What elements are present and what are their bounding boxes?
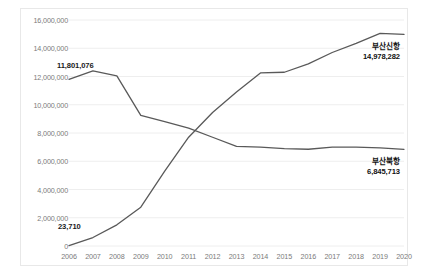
y-axis-tick-label: 14,000,000 [0,44,68,53]
x-axis-tick-label: 2007 [85,252,101,261]
x-axis-tick-label: 2006 [61,252,77,261]
series-lines [69,33,404,245]
y-axis-tick-label: 10,000,000 [0,100,68,109]
new-port-end-label: 부산신항14,978,282 [280,42,400,63]
x-axis-tick-label: 2015 [277,252,293,261]
x-axis-tick-label: 2018 [348,252,364,261]
x-axis-tick-label: 2016 [300,252,316,261]
x-axis-tick-label: 2008 [109,252,125,261]
new-port-first-value: 23,710 [58,222,81,231]
north-port-end-label: 부산북항6,845,713 [280,157,400,178]
y-axis-labels: 02,000,0004,000,0006,000,0008,000,00010,… [0,0,68,276]
x-axis-tick-label: 2010 [157,252,173,261]
y-axis-tick-label: 2,000,000 [0,213,68,222]
x-axis-tick-label: 2017 [324,252,340,261]
series-line-0 [69,71,404,149]
x-axis-tick-label: 2014 [253,252,269,261]
series-name: 부산북항 [280,157,400,167]
x-axis-labels: 2006200720082009201020112012201320142015… [0,252,423,268]
x-axis-tick-label: 2019 [372,252,388,261]
series-name: 부산신항 [280,42,400,52]
y-axis-tick-label: 12,000,000 [0,72,68,81]
series-value: 6,845,713 [280,167,400,177]
x-axis-tick-label: 2011 [181,252,196,261]
y-axis-tick-label: 8,000,000 [0,129,68,138]
x-axis-tick-label: 2012 [205,252,221,261]
north-port-first-value: 11,801,076 [57,61,94,70]
x-axis-tick-label: 2020 [396,252,412,261]
y-axis-tick-label: 4,000,000 [0,185,68,194]
x-axis-tick-label: 2009 [133,252,149,261]
y-axis-tick-label: 0 [0,242,68,251]
series-line-1 [69,33,404,245]
y-axis-tick-label: 6,000,000 [0,157,68,166]
series-value: 14,978,282 [280,52,400,62]
y-axis-tick-label: 16,000,000 [0,16,68,25]
x-axis-tick-label: 2013 [229,252,245,261]
